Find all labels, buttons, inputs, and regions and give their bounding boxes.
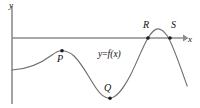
point-label-s: S bbox=[171, 20, 176, 30]
function-curve bbox=[12, 29, 187, 98]
point-marker-s bbox=[168, 36, 172, 40]
point-marker-q bbox=[108, 96, 112, 100]
function-equation-label: y=f(x) bbox=[98, 50, 121, 60]
point-label-p: P bbox=[57, 54, 63, 64]
point-marker-r bbox=[146, 36, 150, 40]
y-axis-label: y bbox=[9, 1, 13, 10]
point-label-r: R bbox=[143, 20, 149, 30]
function-label-rhs: f(x) bbox=[108, 49, 121, 59]
point-label-q: Q bbox=[104, 83, 111, 93]
graph-figure: y x P Q R S y=f(x) bbox=[0, 0, 200, 108]
x-axis-label: x bbox=[188, 35, 192, 44]
